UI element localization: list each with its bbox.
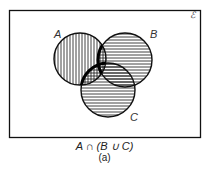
set-b-label: B	[150, 28, 157, 40]
universe-label: ℰ	[190, 10, 195, 20]
subcaption: (a)	[0, 152, 209, 163]
set-a-label: A	[54, 28, 61, 40]
set-c-label: C	[130, 111, 138, 123]
